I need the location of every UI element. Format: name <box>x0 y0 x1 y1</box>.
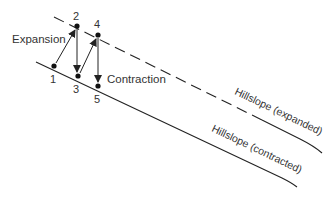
contraction-label: Contraction <box>107 73 166 85</box>
arrow-3-to-4 <box>80 39 96 73</box>
hillslope-expanded-line <box>54 17 322 153</box>
point-1 <box>51 63 56 68</box>
point-5 <box>95 83 100 88</box>
point-label-3: 3 <box>73 83 79 95</box>
expansion-label: Expansion <box>12 33 66 45</box>
point-2 <box>74 23 79 28</box>
hillslope-contracted-label: Hillslope (contracted) <box>210 122 304 175</box>
hillslope-expanded-label: Hillslope (expanded) <box>233 85 325 137</box>
point-3 <box>75 73 80 78</box>
hillslope-contracted-line <box>36 62 297 187</box>
point-label-5: 5 <box>94 93 100 105</box>
hillslope-diagram: 1 2 3 4 5 Expansion Contraction Hillslop… <box>0 0 332 203</box>
point-label-4: 4 <box>94 18 100 30</box>
point-label-2: 2 <box>73 10 79 22</box>
point-4 <box>95 32 100 37</box>
point-label-1: 1 <box>50 73 56 85</box>
